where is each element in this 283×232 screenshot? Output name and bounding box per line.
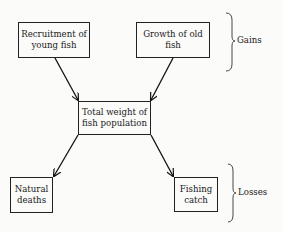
arrow-total-to-fishing — [151, 135, 173, 176]
gains-brace — [226, 13, 235, 71]
node-natural: Natural deaths — [10, 177, 53, 213]
gains-label: Gains — [237, 35, 262, 45]
node-growth: Growth of old fish — [136, 22, 210, 58]
node-natural-label: Natural deaths — [13, 184, 50, 206]
node-fishing: Fishing catch — [174, 177, 218, 212]
node-recruitment: Recruitment of young fish — [18, 22, 90, 58]
node-total-label: Total weight of fish population — [81, 107, 148, 129]
node-recruitment-label: Recruitment of young fish — [21, 29, 87, 51]
arrow-total-to-natural — [54, 135, 78, 176]
node-growth-label: Growth of old fish — [139, 29, 207, 51]
losses-brace — [228, 164, 236, 222]
node-fishing-label: Fishing catch — [177, 184, 215, 206]
arrow-growth-to-total — [151, 58, 173, 100]
losses-label: Losses — [238, 187, 267, 197]
arrow-recruitment-to-total — [55, 58, 78, 100]
node-total: Total weight of fish population — [78, 101, 151, 135]
